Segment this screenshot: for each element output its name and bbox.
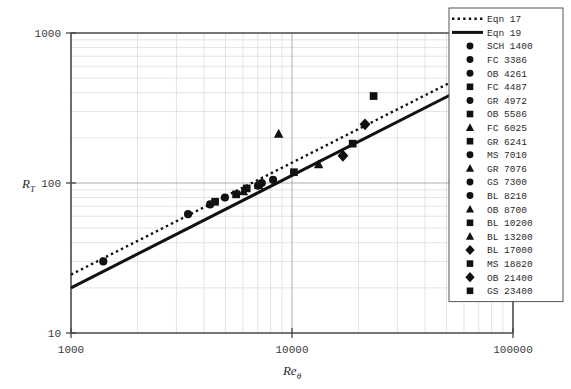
x-tick-label-100000: 100000 xyxy=(493,344,533,356)
legend-label: Eqn 17 xyxy=(487,14,521,25)
chart-legend[interactable]: Eqn 17Eqn 19SCH 1400FC 3386OB 4261FC 448… xyxy=(449,8,563,302)
data-point: GS 23400 (23400, 380) xyxy=(370,92,378,100)
legend-label: GS 23400 xyxy=(487,286,533,297)
square-marker-icon xyxy=(467,260,474,267)
data-point: GR 4972 (4972, 80) xyxy=(221,193,229,201)
legend-label: BL 13200 xyxy=(487,232,533,243)
data-point: MS 18820 (18820, 183) xyxy=(349,140,357,148)
y-tick-label-1000: 1000 xyxy=(35,28,61,40)
circle-marker-icon xyxy=(467,56,474,63)
x-tick-label-1000: 1000 xyxy=(58,344,84,356)
legend-label: GS 7300 xyxy=(487,177,527,188)
legend-label: OB 8700 xyxy=(487,205,527,216)
square-marker-icon xyxy=(467,111,474,118)
legend-label: OB 4261 xyxy=(487,69,527,80)
data-point: BL 8210 (8210, 105) xyxy=(269,176,277,184)
square-marker-icon xyxy=(467,138,474,145)
legend-label: BL 10200 xyxy=(487,218,533,229)
data-point: BL 10200 (10200, 118) xyxy=(290,168,298,176)
square-marker-icon xyxy=(467,220,474,227)
data-point: GS 7300 (7300, 100) xyxy=(258,179,266,187)
square-marker-icon xyxy=(467,84,474,91)
y-tick-label-100: 100 xyxy=(41,178,61,190)
legend-label: SCH 1400 xyxy=(487,41,533,52)
legend-label: OB 21400 xyxy=(487,273,533,284)
legend-label: BL 17000 xyxy=(487,245,533,256)
data-point: OB 5586 (5586, 84) xyxy=(232,191,240,199)
circle-marker-icon xyxy=(467,70,474,77)
circle-marker-icon xyxy=(467,179,474,186)
data-point: GR 6241 (6241, 92) xyxy=(243,185,251,193)
legend-label: MS 7010 xyxy=(487,150,527,161)
circle-marker-icon xyxy=(467,151,474,158)
circle-marker-icon xyxy=(467,43,474,50)
legend-label: GR 7076 xyxy=(487,164,527,175)
legend-label: GR 4972 xyxy=(487,96,527,107)
circle-marker-icon xyxy=(467,97,474,104)
data-point: SCH 1400 (1400, 30) xyxy=(99,257,107,265)
circle-marker-icon xyxy=(467,192,474,199)
data-point: FC 3386 (3386, 62) xyxy=(184,210,192,218)
legend-label: OB 5586 xyxy=(487,109,527,120)
data-point: FC 4487 (4487, 75) xyxy=(211,198,219,206)
legend-label: FC 6025 xyxy=(487,123,527,134)
legend-label: GR 6241 xyxy=(487,137,527,148)
square-marker-icon xyxy=(467,288,474,295)
x-tick-label-10000: 10000 xyxy=(275,344,308,356)
legend-label: FC 4487 xyxy=(487,82,527,93)
legend-label: BL 8210 xyxy=(487,191,527,202)
legend-label: MS 18820 xyxy=(487,259,533,270)
scatter-plot: SCH 1400 (1400, 30)FC 3386 (3386, 62)OB … xyxy=(0,0,571,389)
chart-container: SCH 1400 (1400, 30)FC 3386 (3386, 62)OB … xyxy=(0,0,571,389)
y-tick-label-10: 10 xyxy=(48,328,61,340)
legend-label: FC 3386 xyxy=(487,55,527,66)
legend-label: Eqn 19 xyxy=(487,28,522,39)
